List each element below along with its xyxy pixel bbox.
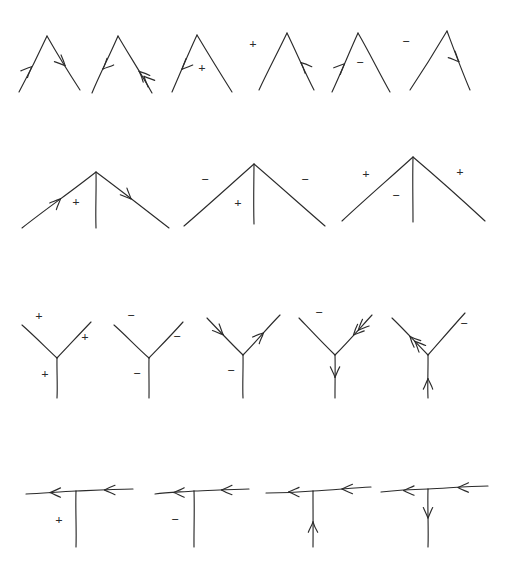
minus-sign-label: − [173,329,180,344]
minus-sign-label: − [392,188,399,203]
plus-sign-label: + [35,308,42,323]
minus-sign-label: − [301,172,308,187]
minus-sign-label: − [171,512,178,527]
plus-sign-label: + [55,512,62,527]
figure-canvas: ++−−+−−+++−+++−−−−−−+− [0,0,511,577]
plus-sign-label: + [456,164,463,179]
minus-sign-label: − [227,363,234,378]
plus-sign-label: + [198,60,205,75]
plus-sign-label: + [41,366,48,381]
plus-sign-label: + [249,36,256,51]
figure-caption [150,556,511,574]
plus-sign-label: + [362,166,369,181]
minus-sign-label: − [356,55,363,70]
plus-sign-label: + [72,194,79,209]
minus-sign-label: − [201,172,208,187]
minus-sign-label: − [460,316,467,331]
minus-sign-label: − [133,366,140,381]
plus-sign-label: + [81,329,88,344]
minus-sign-label: − [402,34,409,49]
minus-sign-label: − [315,305,322,320]
plus-sign-label: + [234,195,241,210]
minus-sign-label: − [127,308,134,323]
